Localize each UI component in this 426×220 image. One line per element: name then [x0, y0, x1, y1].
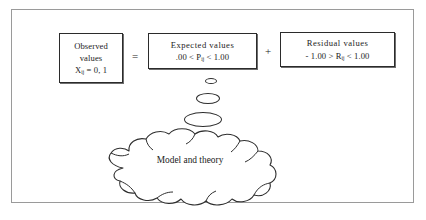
residual-formula-prefix: - 1.00 > R: [306, 51, 342, 61]
plus-operator: +: [259, 46, 277, 57]
figure-canvas: Observed values Xij = 0, 1 = Expected va…: [0, 0, 426, 220]
expected-formula-prefix: .00 < P: [176, 52, 201, 62]
figure-border: Observed values Xij = 0, 1 = Expected va…: [11, 9, 414, 203]
observed-values-line-1: Observed: [74, 40, 108, 52]
cloud-label: Model and theory: [90, 155, 290, 165]
cloud-shape-icon: [90, 128, 290, 208]
expected-values-formula: .00 < Pij < 1.00: [176, 51, 229, 63]
equals-operator: =: [126, 51, 144, 62]
residual-values-formula: - 1.00 > Rij < 1.00: [306, 50, 370, 62]
observed-values-line-2: values: [80, 52, 103, 64]
observed-formula-suffix: = 0, 1: [84, 65, 107, 75]
small-bubble-icon: [205, 78, 217, 84]
residual-values-box: Residual values - 1.00 > Rij < 1.00: [280, 32, 395, 67]
observed-values-formula: Xij = 0, 1: [75, 64, 107, 76]
model-and-theory-cloud: Model and theory: [90, 128, 290, 208]
expected-formula-suffix: < 1.00: [204, 52, 229, 62]
expected-values-title: Expected values: [171, 39, 235, 51]
residual-formula-suffix: < 1.00: [345, 51, 370, 61]
medium-bubble-icon: [196, 93, 220, 104]
large-bubble-icon: [184, 112, 222, 127]
observed-values-box: Observed values Xij = 0, 1: [59, 33, 123, 83]
residual-values-title: Residual values: [307, 37, 369, 49]
expected-values-box: Expected values .00 < Pij < 1.00: [148, 33, 257, 69]
